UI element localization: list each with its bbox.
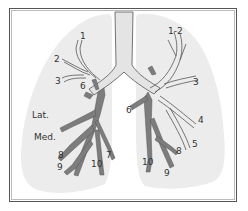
label-ls9: 9 (164, 168, 170, 178)
label-ls5: 5 (192, 139, 198, 149)
label-rs9: 9 (57, 162, 63, 172)
label-lat: Lat. (32, 110, 49, 120)
label-rs3: 3 (55, 76, 61, 86)
label-ls4: 4 (198, 115, 204, 125)
label-ls12: 1-2 (168, 26, 183, 36)
label-ls10: 10 (142, 157, 154, 167)
label-ls6: 6 (126, 105, 132, 115)
label-ls8: 8 (176, 146, 182, 156)
label-rs2: 2 (54, 54, 60, 64)
label-rs7: 7 (106, 150, 112, 160)
label-rs1: 1 (80, 31, 86, 41)
label-med: Med. (34, 132, 56, 142)
label-rs6: 6 (80, 81, 86, 91)
label-rs8: 8 (58, 150, 64, 160)
label-rs10: 10 (91, 159, 103, 169)
lung-diagram: 1 2 3 6 Lat. Med. 8 7 9 10 1-2 3 4 5 6 8… (0, 0, 248, 211)
label-ls3: 3 (193, 77, 199, 87)
